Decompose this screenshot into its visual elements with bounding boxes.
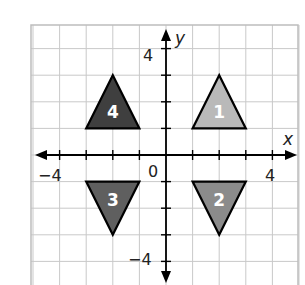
y-tick-label-neg4: −4 <box>128 250 152 269</box>
x-tick-label-4: 4 <box>265 166 275 185</box>
y-axis-down-arrow-icon <box>161 271 171 283</box>
coordinate-plane: 1234 x y 0 −4 4 4 −4 <box>0 0 305 285</box>
triangle-label: 2 <box>213 190 225 210</box>
axes <box>35 29 297 283</box>
y-axis-label: y <box>174 28 186 48</box>
origin-label: 0 <box>148 162 158 181</box>
y-tick-label-4: 4 <box>143 46 153 65</box>
triangle-label: 4 <box>107 102 119 122</box>
triangle-label: 3 <box>107 190 119 210</box>
y-axis-up-arrow-icon <box>161 29 171 41</box>
x-tick-label-neg4: −4 <box>38 166 62 185</box>
x-axis-right-arrow-icon <box>285 150 297 160</box>
triangle-label: 1 <box>213 102 225 122</box>
x-axis-label: x <box>282 129 294 149</box>
x-axis-left-arrow-icon <box>35 150 47 160</box>
